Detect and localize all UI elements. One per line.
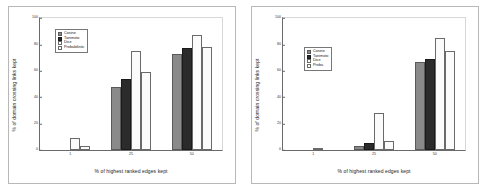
legend-swatch-icon (58, 41, 62, 45)
y-tick-label: 40 (277, 95, 283, 99)
legend-swatch-icon (307, 55, 311, 59)
y-tick-label: 80 (34, 43, 40, 47)
bar-cosine-25 (111, 87, 121, 150)
chart-panel-left: % of domain crossing links kept 02040608… (8, 6, 236, 184)
bar-dice-25 (131, 51, 141, 150)
bar-tanimoto-25 (364, 143, 374, 150)
y-tick-label: 60 (34, 69, 40, 73)
y-tick-label: 0 (279, 148, 283, 152)
legend-swatch-icon (307, 50, 311, 54)
x-axis-label-left: % of highest ranked edges kept (39, 168, 223, 174)
plot-wrapper-left: % of domain crossing links kept 02040608… (9, 7, 235, 183)
bar-cosine-50 (415, 62, 425, 150)
bar-proba-25 (384, 141, 394, 150)
y-axis-label-right: % of domain crossing links kept (254, 58, 260, 131)
x-tick-label: 25 (372, 150, 376, 157)
bar-probabilistic-1 (80, 146, 90, 150)
x-tick-label: 25 (129, 150, 133, 157)
bar-dice-1 (70, 138, 80, 150)
legend-label: Probabilistic (64, 46, 84, 50)
bar-group (415, 18, 455, 150)
x-tick-label: 1 (69, 150, 71, 157)
bar-dice-50 (192, 35, 202, 150)
y-tick-label: 60 (277, 69, 283, 73)
bar-cosine-25 (354, 146, 364, 150)
plot-wrapper-right: % of domain crossing links kept 02040608… (252, 7, 478, 183)
figure-sheet: % of domain crossing links kept 02040608… (0, 0, 490, 191)
bar-dice-1 (313, 148, 323, 150)
x-tick-label: 1 (312, 150, 314, 157)
legend-label: Proba (313, 64, 323, 68)
legend-swatch-icon (58, 46, 62, 50)
y-tick-label: 80 (277, 43, 283, 47)
y-tick-label: 0 (36, 148, 40, 152)
x-axis-label-right: % of highest ranked edges kept (282, 168, 466, 174)
x-tick-label: 50 (190, 150, 194, 157)
bar-tanimoto-50 (425, 59, 435, 150)
bar-probabilistic-25 (141, 72, 151, 150)
bar-tanimoto-25 (121, 79, 131, 150)
bar-probabilistic-50 (202, 47, 212, 150)
legend-swatch-icon (58, 32, 62, 36)
plot-area-right: 02040608010012550 (282, 17, 466, 151)
chart-panel-right: % of domain crossing links kept 02040608… (251, 6, 479, 184)
bar-group (172, 18, 212, 150)
bar-group (354, 18, 394, 150)
legend-item-proba: Proba (307, 64, 328, 68)
y-tick-label: 20 (34, 122, 40, 126)
bar-proba-50 (445, 51, 455, 150)
x-tick-label: 50 (433, 150, 437, 157)
legend-swatch-icon (307, 64, 311, 68)
legend-swatch-icon (307, 59, 311, 63)
bar-dice-25 (374, 113, 384, 150)
legend-right: CosineTanimotoDiceProba (304, 47, 332, 71)
y-tick-label: 100 (32, 16, 40, 20)
bar-dice-50 (435, 38, 445, 150)
bar-cosine-50 (172, 54, 182, 150)
y-axis-label-left: % of domain crossing links kept (11, 58, 17, 131)
legend-item-probabilistic: Probabilistic (58, 46, 84, 50)
y-tick-label: 100 (275, 16, 283, 20)
bar-group (293, 18, 333, 150)
y-tick-label: 20 (277, 122, 283, 126)
bar-tanimoto-50 (182, 48, 192, 150)
legend-left: CosineTanimotoDiceProbabilistic (55, 29, 88, 53)
bar-group (111, 18, 151, 150)
y-tick-label: 40 (34, 95, 40, 99)
legend-swatch-icon (58, 37, 62, 41)
